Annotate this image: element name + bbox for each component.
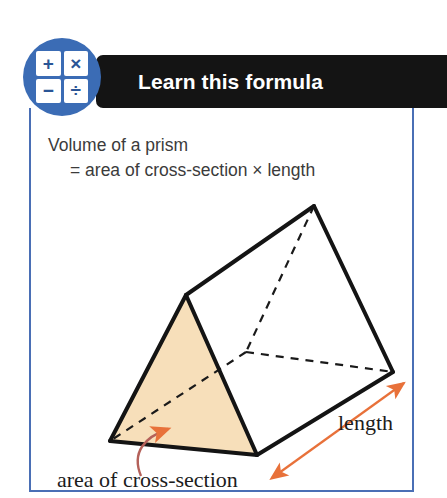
formula-card-page: Learn this formula + × − ÷ Volume of a p… <box>0 0 447 498</box>
calculator-badge-icon: + × − ÷ <box>23 38 101 116</box>
cross-section-label: area of cross-section <box>57 467 238 493</box>
calculator-symbol-grid: + × − ÷ <box>36 51 88 103</box>
minus-icon: − <box>36 79 61 104</box>
page-title: Learn this formula <box>138 70 323 94</box>
header-bar: Learn this formula <box>96 55 447 108</box>
length-label: length <box>338 410 393 436</box>
plus-icon: + <box>36 51 61 76</box>
multiply-icon: × <box>64 51 89 76</box>
divide-icon: ÷ <box>64 79 89 104</box>
